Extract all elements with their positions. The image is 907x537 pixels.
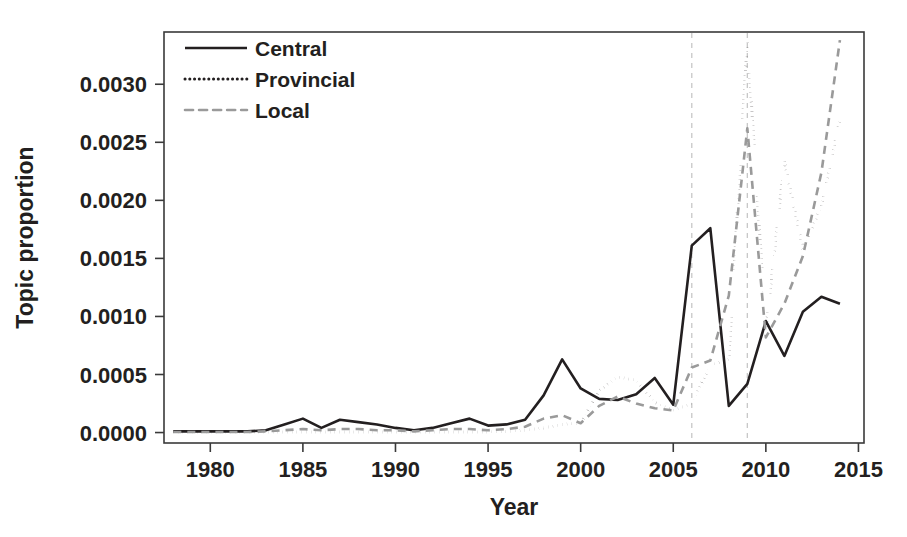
y-tick-label-0.0025: 0.0025 — [80, 130, 147, 155]
x-tick-label-1980: 1980 — [186, 457, 235, 482]
series-line-provincial — [173, 39, 840, 432]
chart-legend: CentralProvincialLocal — [185, 37, 355, 122]
plot-frame — [164, 32, 864, 443]
y-axis-title: Topic proportion — [12, 146, 38, 328]
legend-label-local: Local — [255, 99, 310, 122]
x-tick-label-2010: 2010 — [741, 457, 790, 482]
legend-label-provincial: Provincial — [255, 68, 355, 91]
series-line-central — [173, 228, 840, 431]
x-tick-label-1985: 1985 — [278, 457, 327, 482]
series-lines — [173, 39, 840, 432]
y-axis-ticks: 0.00000.00050.00100.00150.00200.00250.00… — [80, 72, 164, 445]
x-tick-label-1990: 1990 — [371, 457, 420, 482]
chart-figure: 19801985199019952000200520102015 0.00000… — [0, 0, 907, 537]
y-tick-label-0.0015: 0.0015 — [80, 246, 147, 271]
y-tick-label-0.0005: 0.0005 — [80, 363, 147, 388]
y-tick-label-0.0000: 0.0000 — [80, 421, 147, 446]
y-tick-label-0.0020: 0.0020 — [80, 188, 147, 213]
y-tick-label-0.0030: 0.0030 — [80, 72, 147, 97]
x-axis-ticks: 19801985199019952000200520102015 — [186, 443, 883, 482]
legend-label-central: Central — [255, 37, 327, 60]
line-chart: 19801985199019952000200520102015 0.00000… — [0, 0, 907, 537]
x-axis-title: Year — [490, 494, 539, 520]
x-tick-label-2015: 2015 — [834, 457, 883, 482]
x-tick-label-2005: 2005 — [649, 457, 698, 482]
x-tick-label-1995: 1995 — [464, 457, 513, 482]
x-tick-label-2000: 2000 — [556, 457, 605, 482]
y-tick-label-0.0010: 0.0010 — [80, 304, 147, 329]
